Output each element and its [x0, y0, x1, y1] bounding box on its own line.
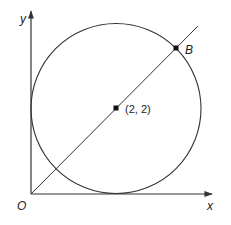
point-b: [174, 46, 179, 51]
coordinate-diagram: [0, 0, 231, 225]
center-point-label: (2, 2): [125, 104, 151, 115]
point-b-label: B: [185, 44, 193, 56]
y-axis-label: y: [20, 13, 26, 25]
center-point: [114, 106, 119, 111]
origin-label: O: [17, 200, 26, 212]
x-axis-label: x: [207, 200, 213, 212]
